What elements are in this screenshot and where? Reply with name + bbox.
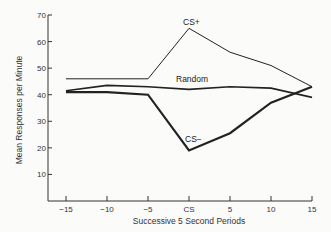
x-tick-label: −10 — [100, 205, 114, 214]
x-tick-label: −5 — [143, 205, 153, 214]
series-labels: CS+ Random CS− — [176, 17, 208, 144]
y-tick-label: 70 — [37, 11, 46, 20]
y-tick-label: 20 — [37, 144, 46, 153]
y-tick-label: 10 — [37, 170, 46, 179]
line-chart: 10203040506070 −15−10−5CS51015 CS+ Rando… — [0, 0, 331, 232]
y-axis: 10203040506070 — [37, 11, 52, 201]
x-tick-label: 15 — [308, 205, 317, 214]
x-axis: −15−10−5CS51015 — [48, 196, 317, 214]
y-tick-label: 30 — [37, 117, 46, 126]
x-tick-label: 10 — [267, 205, 276, 214]
x-tick-label: CS — [183, 205, 194, 214]
series-lines — [66, 28, 312, 150]
y-axis-title: Mean Responses per Minute — [14, 55, 24, 164]
x-axis-title: Successive 5 Second Periods — [133, 216, 245, 226]
series-label-cs-plus: CS+ — [183, 17, 200, 27]
series-label-random: Random — [176, 74, 208, 84]
y-tick-label: 50 — [37, 64, 46, 73]
x-tick-label: −15 — [59, 205, 73, 214]
x-tick-label: 5 — [228, 205, 233, 214]
y-tick-label: 60 — [37, 38, 46, 47]
y-tick-label: 40 — [37, 91, 46, 100]
series-label-cs-minus: CS− — [185, 134, 202, 144]
